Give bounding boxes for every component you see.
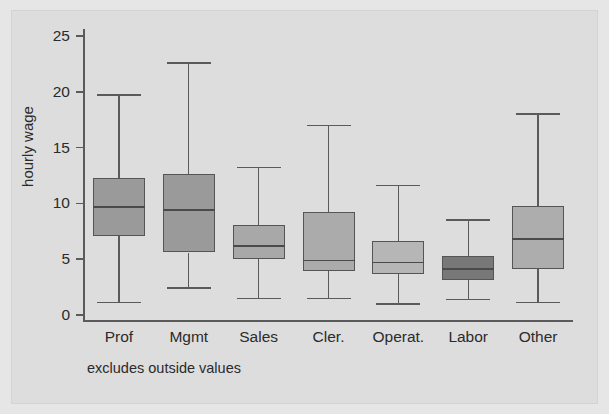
- whisker-lower-cap: [97, 302, 141, 304]
- y-axis-line: [83, 29, 85, 321]
- whisker-upper-stem: [118, 95, 119, 178]
- y-tick-mark: [76, 203, 84, 205]
- whisker-upper-cap: [237, 167, 281, 169]
- x-axis-line: [83, 320, 573, 322]
- whisker-upper-cap: [516, 113, 560, 115]
- y-tick-label: 25: [30, 28, 70, 44]
- whisker-upper-stem: [328, 125, 329, 212]
- whisker-lower-stem: [398, 274, 399, 304]
- y-tick-mark: [76, 314, 84, 316]
- whisker-lower-cap: [167, 287, 211, 289]
- median-line: [372, 262, 424, 264]
- box-iqr: [163, 174, 215, 252]
- whisker-lower-cap: [446, 299, 490, 301]
- y-tick-label: 15: [30, 140, 70, 156]
- whisker-upper-stem: [258, 168, 259, 225]
- whisker-lower-cap: [516, 302, 560, 304]
- whisker-lower-stem: [537, 269, 538, 302]
- median-line: [442, 268, 494, 270]
- y-tick-mark: [76, 258, 84, 260]
- footnote-text: excludes outside values: [87, 360, 241, 376]
- whisker-lower-stem: [118, 236, 119, 303]
- whisker-upper-cap: [376, 185, 420, 187]
- whisker-upper-stem: [468, 220, 469, 256]
- whisker-lower-cap: [307, 298, 351, 300]
- median-line: [93, 206, 145, 208]
- median-line: [512, 238, 564, 240]
- whisker-lower-cap: [376, 303, 420, 305]
- x-tick-label: Other: [488, 328, 588, 346]
- box-iqr: [303, 212, 355, 271]
- whisker-upper-stem: [398, 186, 399, 242]
- y-tick-mark: [76, 147, 84, 149]
- whisker-lower-stem: [468, 280, 469, 299]
- boxplot-figure: hourly wage 0510152025ProfMgmtSalesCler.…: [0, 0, 609, 414]
- median-line: [233, 245, 285, 247]
- whisker-lower-cap: [237, 298, 281, 300]
- whisker-upper-cap: [307, 125, 351, 127]
- whisker-lower-stem: [188, 253, 189, 289]
- whisker-upper-stem: [188, 63, 189, 175]
- box-iqr: [372, 241, 424, 273]
- y-tick-mark: [76, 35, 84, 37]
- whisker-upper-stem: [537, 114, 538, 206]
- median-line: [303, 260, 355, 262]
- whisker-upper-cap: [167, 62, 211, 64]
- y-tick-label: 20: [30, 84, 70, 100]
- y-tick-label: 0: [30, 307, 70, 323]
- median-line: [163, 209, 215, 211]
- y-tick-label: 10: [30, 195, 70, 211]
- y-tick-mark: [76, 91, 84, 93]
- box-iqr: [233, 225, 285, 260]
- whisker-upper-cap: [97, 94, 141, 96]
- whisker-upper-cap: [446, 219, 490, 221]
- y-tick-label: 5: [30, 251, 70, 267]
- whisker-lower-stem: [328, 271, 329, 298]
- whisker-lower-stem: [258, 259, 259, 298]
